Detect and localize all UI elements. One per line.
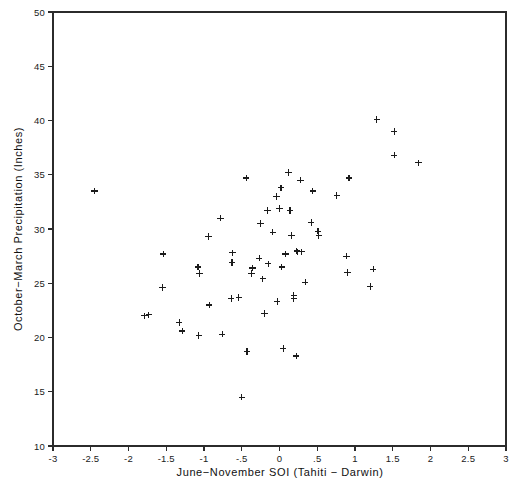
data-point	[334, 192, 340, 198]
data-point	[265, 261, 271, 267]
data-point	[229, 250, 235, 256]
data-point	[297, 177, 303, 183]
data-point	[179, 328, 185, 334]
data-point	[205, 233, 211, 239]
x-tick-label: .5	[313, 453, 321, 464]
x-tick-label: -.5	[236, 453, 248, 464]
x-tick-label: -3	[49, 453, 58, 464]
y-axis-title: October−March Precipitation (Inches)	[12, 127, 24, 331]
data-point	[391, 128, 397, 134]
data-point	[279, 264, 285, 270]
data-point	[367, 283, 373, 289]
data-point	[374, 116, 380, 122]
data-point	[344, 269, 350, 275]
plot-canvas: -3-2.5-2-1.5-1-.50.511.522.53 1015202530…	[0, 0, 525, 490]
y-tick-label: 45	[34, 61, 45, 72]
scatter-plot-figure: -3-2.5-2-1.5-1-.50.511.522.53 1015202530…	[0, 0, 525, 490]
x-tick-label: 3	[503, 453, 508, 464]
data-point	[308, 219, 314, 225]
data-point	[294, 248, 300, 254]
data-point	[195, 264, 201, 270]
plot-frame	[53, 12, 506, 446]
data-point	[391, 152, 397, 158]
data-point	[206, 302, 212, 308]
data-point	[273, 193, 279, 199]
data-point	[280, 345, 286, 351]
y-tick-label: 20	[34, 332, 45, 343]
data-point	[229, 259, 235, 265]
x-tick-label: 2.5	[461, 453, 475, 464]
data-point	[256, 255, 262, 261]
y-tick-label: 40	[34, 115, 45, 126]
data-point	[217, 215, 223, 221]
y-tick-label: 10	[34, 441, 45, 452]
data-point	[288, 232, 294, 238]
y-tick-label: 30	[34, 224, 45, 235]
data-point-series	[91, 116, 421, 400]
x-tick-label: 0	[277, 453, 282, 464]
x-tick-label: -2.5	[82, 453, 99, 464]
data-point	[260, 276, 266, 282]
data-point	[293, 353, 299, 359]
y-tick-label: 15	[34, 386, 45, 397]
data-point	[261, 310, 267, 316]
x-tick-label: -1.5	[158, 453, 175, 464]
data-point	[236, 294, 242, 300]
data-point	[274, 298, 280, 304]
y-tick-label: 50	[34, 7, 45, 18]
data-point	[415, 160, 421, 166]
data-point	[346, 175, 352, 181]
data-point	[278, 185, 284, 191]
x-tick-label: -2	[124, 453, 133, 464]
data-point	[287, 207, 293, 213]
data-point	[298, 249, 304, 255]
data-point	[343, 253, 349, 259]
data-point	[196, 270, 202, 276]
data-point	[196, 332, 202, 338]
x-axis-ticks: -3-2.5-2-1.5-1-.50.511.522.53	[49, 446, 509, 464]
data-point	[91, 188, 97, 194]
data-point	[282, 251, 288, 257]
data-point	[160, 251, 166, 257]
data-point	[264, 207, 270, 213]
data-point	[302, 279, 308, 285]
data-point	[244, 348, 250, 354]
y-tick-label: 35	[34, 169, 45, 180]
data-point	[276, 205, 282, 211]
data-point	[316, 232, 322, 238]
y-axis-ticks: 101520253035404550	[34, 7, 53, 452]
data-point	[257, 220, 263, 226]
data-point	[141, 313, 147, 319]
data-point	[270, 229, 276, 235]
data-point	[249, 265, 255, 271]
data-point	[239, 394, 245, 400]
x-tick-label: 1	[352, 453, 357, 464]
y-tick-label: 25	[34, 278, 45, 289]
data-point	[285, 169, 291, 175]
data-point	[370, 266, 376, 272]
data-point	[291, 295, 297, 301]
data-point	[310, 188, 316, 194]
data-point	[176, 319, 182, 325]
axis-frame	[53, 12, 506, 446]
x-tick-label: 1.5	[386, 453, 400, 464]
x-axis-title: June−November SOI (Tahiti − Darwin)	[177, 466, 384, 478]
data-point	[228, 295, 234, 301]
data-point	[248, 270, 254, 276]
data-point	[243, 175, 249, 181]
data-point	[219, 331, 225, 337]
data-point	[159, 284, 165, 290]
data-point	[146, 312, 152, 318]
x-tick-label: 2	[428, 453, 433, 464]
x-tick-label: -1	[200, 453, 209, 464]
data-point	[315, 228, 321, 234]
